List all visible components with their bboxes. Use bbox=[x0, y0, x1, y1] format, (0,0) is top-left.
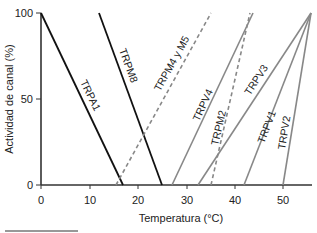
label-trpv1: TRPV1 bbox=[255, 109, 278, 145]
series-trpm2 bbox=[211, 13, 250, 185]
x-tick-label: 40 bbox=[229, 194, 241, 206]
x-tick-label: 50 bbox=[277, 194, 289, 206]
y-tick-label: 0 bbox=[27, 179, 33, 191]
x-tick-label: 10 bbox=[84, 194, 96, 206]
y-tick-label: 100 bbox=[15, 7, 33, 19]
y-axis-label: Actividad de canal (%) bbox=[3, 44, 15, 153]
series-trpv2 bbox=[283, 13, 311, 185]
chart: 100 50 0 0 10 20 30 40 50 Temperatura (°… bbox=[0, 0, 317, 233]
y-tick-label: 50 bbox=[21, 93, 33, 105]
x-tick-label: 30 bbox=[181, 194, 193, 206]
label-trpv3: TRPV3 bbox=[242, 62, 271, 97]
label-trpv4: TRPV4 bbox=[190, 87, 215, 123]
x-axis-label: Temperatura (°C) bbox=[139, 212, 223, 224]
x-tick-label: 20 bbox=[132, 194, 144, 206]
x-tick-label: 0 bbox=[38, 194, 44, 206]
label-trpm2: TRPM2 bbox=[208, 109, 228, 147]
series-trpa1 bbox=[41, 13, 123, 185]
label-trpm8: TRPM8 bbox=[117, 47, 141, 85]
label-trpa1: TRPA1 bbox=[78, 78, 103, 113]
